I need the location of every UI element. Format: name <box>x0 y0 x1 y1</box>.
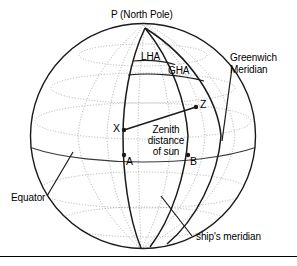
label-zenith-distance-line1: Zenith <box>140 124 192 136</box>
label-greenwich-meridian-line2: Meridian <box>230 64 268 76</box>
label-zenith-distance-line3: of sun <box>140 146 192 158</box>
label-equator: Equator <box>11 192 45 204</box>
label-north-pole: P (North Pole) <box>111 9 173 21</box>
celestial-navigation-diagram: P (North Pole) LHA GHA X Z A B Zenith di… <box>0 0 297 266</box>
point-x-marker <box>122 128 126 132</box>
label-point-b: B <box>190 156 197 168</box>
point-z-marker <box>194 105 198 109</box>
label-lha: LHA <box>141 51 160 63</box>
label-point-x: X <box>113 123 120 135</box>
label-gha: GHA <box>168 65 189 77</box>
label-point-z: Z <box>200 99 206 111</box>
label-zenith-distance-line2: distance <box>140 135 192 147</box>
label-ships-meridian: ship's meridian <box>196 231 261 243</box>
label-greenwich-meridian-line1: Greenwich <box>230 52 277 64</box>
label-point-a: A <box>126 156 133 168</box>
